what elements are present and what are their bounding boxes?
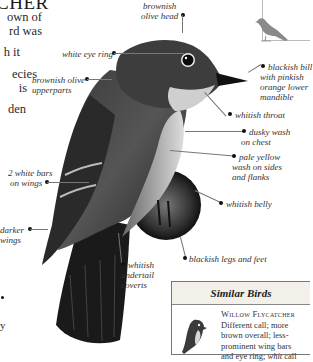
leader-line xyxy=(47,182,89,183)
label-wingbars-line1: 2 white bars xyxy=(8,168,53,178)
label-head-line1: brownish xyxy=(143,1,176,11)
leader-line xyxy=(30,229,48,230)
label-sides-line2: wash on sides xyxy=(232,162,282,172)
label-head-line2: olive head xyxy=(141,11,178,21)
pointer-dot xyxy=(183,256,187,260)
label-bill-line4: mandible xyxy=(260,92,294,102)
body-text-line: h it xyxy=(0,45,20,59)
description-line: brown overall; less- xyxy=(221,330,297,341)
label-undertail-line1: whitish xyxy=(128,260,154,270)
similar-birds-panel: Similar Birds Willow Flycatcher Differen… xyxy=(171,281,310,355)
bullet-dot xyxy=(1,296,4,299)
description-text: and eye ring; xyxy=(221,351,268,361)
label-throat: whitish throat xyxy=(235,110,285,120)
label-wings-line2: wings xyxy=(0,235,21,245)
body-text-line: is xyxy=(0,81,27,95)
leader-line xyxy=(87,79,112,80)
pointer-dot xyxy=(232,154,236,158)
label-chest-line1: dusky wash xyxy=(249,127,290,137)
label-wingbars-line2: on wings xyxy=(10,178,42,188)
label-undertail-line3: coverts xyxy=(121,280,147,290)
pointer-dot xyxy=(219,201,223,205)
label-undertail-line2: undertail xyxy=(121,270,154,280)
description-line: prominent wing bars xyxy=(221,341,297,352)
label-legs: blackish legs and feet xyxy=(189,254,267,264)
description-text: call xyxy=(282,351,296,361)
similar-bird-description: Willow Flycatcher Different call; more b… xyxy=(221,309,297,362)
label-upperparts-line1: brownish olive xyxy=(32,75,85,85)
label-sides-line1: pale yellow xyxy=(239,152,280,162)
similar-bird-name: Willow Flycatcher xyxy=(221,309,297,320)
similar-birds-heading: Similar Birds xyxy=(172,282,310,305)
label-bill-line3: orange lower xyxy=(260,82,308,92)
body-text-line: own of xyxy=(0,10,42,24)
label-wings-line1: darker xyxy=(0,225,24,235)
call-word: whit xyxy=(268,351,283,361)
label-belly: whitish belly xyxy=(226,199,272,209)
body-text-fragment: y xyxy=(0,318,6,332)
leader-line xyxy=(182,15,183,33)
label-bill-line1: blackish bill xyxy=(268,62,312,72)
pointer-dot xyxy=(228,112,232,116)
leader-line xyxy=(185,131,243,132)
bird-silhouette-icon xyxy=(255,16,291,44)
label-eye-ring: white eye ring xyxy=(62,49,113,59)
leader-line xyxy=(114,53,184,54)
label-bill-line2: with pinkish xyxy=(260,72,304,82)
label-chest-line2: on chest xyxy=(241,137,271,147)
pointer-dot xyxy=(242,129,246,133)
willow-flycatcher-thumbnail xyxy=(180,318,208,354)
description-line: and eye ring; whit call xyxy=(221,351,297,362)
body-text-line: den xyxy=(0,102,26,116)
label-upperparts-line2: upperparts xyxy=(32,85,72,95)
label-sides-line3: and flanks xyxy=(232,172,269,182)
pointer-dot xyxy=(121,262,125,266)
description-line: Different call; more xyxy=(221,320,297,331)
